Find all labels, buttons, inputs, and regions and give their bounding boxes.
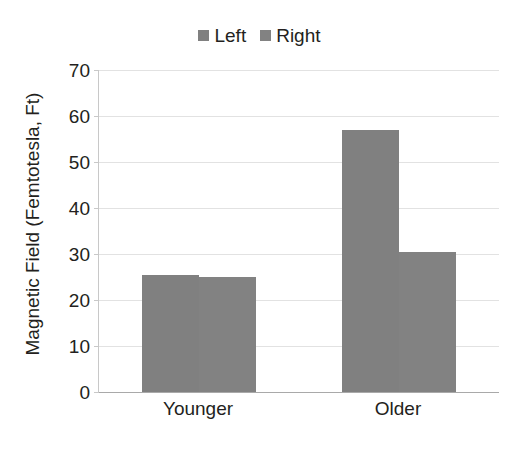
- y-axis-tick-label: 20: [69, 291, 90, 310]
- y-axis-tick-label: 0: [79, 383, 90, 402]
- legend-entry-right[interactable]: Right: [260, 26, 320, 45]
- x-axis-label-younger: Younger: [163, 398, 233, 420]
- y-axis-tick: [94, 162, 99, 163]
- y-axis-tick: [94, 254, 99, 255]
- legend-swatch-right-icon: [260, 30, 271, 41]
- y-axis-tick-label: 50: [69, 153, 90, 172]
- gridline: [99, 208, 499, 209]
- x-axis-line: [99, 392, 499, 393]
- y-axis-tick: [94, 70, 99, 71]
- y-axis-tick: [94, 346, 99, 347]
- y-axis-tick: [94, 116, 99, 117]
- gridline: [99, 162, 499, 163]
- y-axis-tick-label: 70: [69, 61, 90, 80]
- y-axis-tick-label: 10: [69, 337, 90, 356]
- legend-entry-left[interactable]: Left: [198, 26, 246, 45]
- x-axis-label-older: Older: [375, 398, 421, 420]
- plot-area: 706050403020100: [98, 70, 499, 392]
- y-axis-tick-label: 60: [69, 107, 90, 126]
- legend-label-left: Left: [214, 26, 246, 45]
- gridline: [99, 70, 499, 71]
- bar-younger-left[interactable]: [142, 275, 199, 392]
- chart-legend: Left Right: [0, 26, 519, 45]
- bar-older-left[interactable]: [342, 130, 399, 392]
- y-axis-tick-label: 30: [69, 245, 90, 264]
- bar-older-right[interactable]: [399, 252, 456, 392]
- legend-swatch-left-icon: [198, 30, 209, 41]
- y-axis-title: Magnetic Field (Femtotesla, Ft): [23, 54, 43, 394]
- y-axis-tick: [94, 208, 99, 209]
- gridline: [99, 116, 499, 117]
- bar-younger-right[interactable]: [199, 277, 256, 392]
- legend-label-right: Right: [276, 26, 320, 45]
- y-axis-tick: [94, 300, 99, 301]
- bar-chart: Left Right Magnetic Field (Femtotesla, F…: [0, 0, 519, 454]
- y-axis-tick: [94, 392, 99, 393]
- y-axis-tick-label: 40: [69, 199, 90, 218]
